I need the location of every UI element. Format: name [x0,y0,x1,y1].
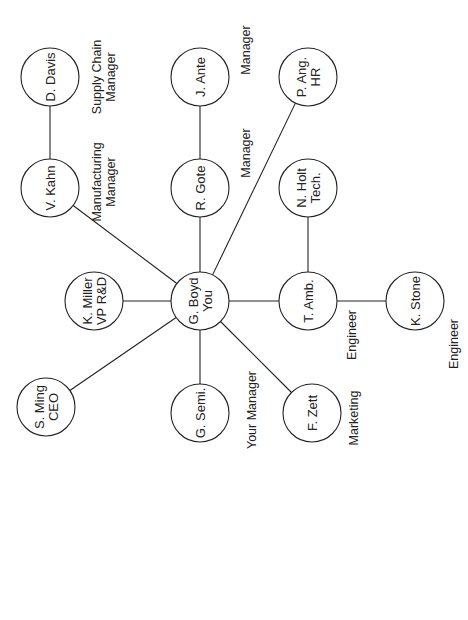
role-gote-label: Manager [239,128,253,177]
node-label: J. Ante [193,57,208,97]
node-stone: K. Stone [386,272,444,330]
role-davis-label: Supply ChainManager [90,40,118,114]
node-label: V. Kahn [43,165,58,210]
node-kahn: V. Kahn [21,159,79,217]
node-ante: J. Ante [171,48,229,106]
node-holt: N. HoltTech. [279,159,337,217]
role-amb-label: Engineer [345,310,359,360]
node-boyd: G. BoydYou [171,272,229,330]
node-label: F. Zett [305,395,320,432]
node-gote: R. Gote [171,159,229,217]
role-stone-label: Engineer [447,319,461,369]
node-amb: T. Amb. [279,272,337,330]
role-ante-label: Manager [239,25,253,74]
node-ming: S. MingCEO [17,378,75,436]
node-label: T. Amb. [301,279,316,322]
node-miller: K. MillerVP R&D [65,272,123,330]
roles-layer: Supply ChainManagerManufacturingManagerM… [90,25,461,449]
node-ang: P. Ang.HR [279,48,337,106]
role-zett-label: Marketing [347,391,361,446]
role-kahn-label: ManufacturingManager [90,142,118,221]
node-label: N. HoltTech. [294,168,323,208]
node-davis: D. Davis [21,48,79,106]
node-label: R. Gote [193,166,208,211]
role-boyd-label: Your Manager [245,371,259,449]
node-label: K. Stone [408,276,423,326]
node-label: G. Semi. [193,388,208,439]
node-label: D. Davis [43,52,58,102]
node-semi: G. Semi. [171,384,229,442]
org-chart-diagram: D. DavisV. KahnJ. AnteR. GoteP. Ang.HRN.… [0,0,468,620]
node-label: K. MillerVP R&D [80,277,109,325]
node-zett: F. Zett [283,384,341,442]
